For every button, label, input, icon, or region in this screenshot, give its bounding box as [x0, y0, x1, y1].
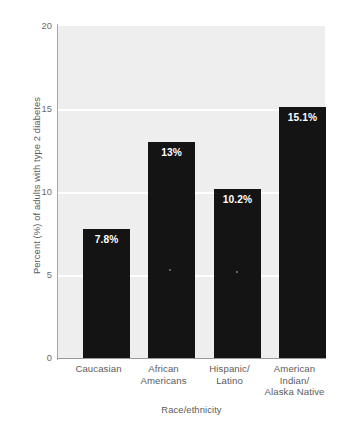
speck-mark [169, 269, 171, 271]
bar-value-american-indian-alaska-native: 15.1% [279, 112, 326, 123]
y-tick-5: 5 [12, 270, 52, 280]
y-tick-15: 15 [12, 104, 52, 114]
category-label-line: American [246, 363, 343, 375]
y-tick-20: 20 [12, 21, 52, 31]
bar-value-hispanic-latino: 10.2% [214, 194, 261, 205]
category-label-american-indian-alaska-native: American Indian/ Alaska Native [246, 363, 343, 398]
speck-mark [236, 271, 238, 273]
plot-area: 7.8% 13% 10.2% 15.1% [58, 26, 325, 358]
bar-african-americans[interactable]: 13% [148, 142, 195, 358]
x-axis-line [57, 358, 326, 359]
category-label-line: Indian/ [246, 375, 343, 387]
bar-value-african-americans: 13% [148, 147, 195, 158]
bar-chart-figure: Percent (%) of adults with type 2 diabet… [0, 0, 358, 425]
y-tick-0: 0 [12, 353, 52, 363]
y-tick-10: 10 [12, 187, 52, 197]
bar-hispanic-latino[interactable]: 10.2% [214, 189, 261, 358]
y-axis-line [57, 24, 58, 360]
bar-value-caucasian: 7.8% [83, 234, 130, 245]
bar-american-indian-alaska-native[interactable]: 15.1% [279, 107, 326, 358]
category-label-line: Alaska Native [246, 386, 343, 398]
x-axis-title: Race/ethnicity [58, 404, 325, 415]
bar-caucasian[interactable]: 7.8% [83, 229, 130, 358]
